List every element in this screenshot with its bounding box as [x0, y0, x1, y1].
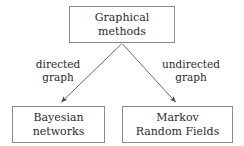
- edge-label-undirected-graph-line2: graph: [148, 71, 234, 84]
- edge-label-undirected-graph: undirected graph: [148, 58, 234, 84]
- node-bayesian-networks-line2: networks: [33, 125, 85, 139]
- node-bayesian-networks[interactable]: Bayesian networks: [12, 106, 105, 143]
- edge-label-directed-graph-line1: directed: [20, 58, 96, 71]
- node-graphical-methods-line2: methods: [98, 25, 146, 39]
- node-markov-random-fields-line2: Random Fields: [136, 125, 220, 139]
- diagram-canvas: Graphical methods Bayesian networks Mark…: [0, 0, 244, 146]
- edge-label-directed-graph-line2: graph: [20, 71, 96, 84]
- edge-label-directed-graph: directed graph: [20, 58, 96, 84]
- node-bayesian-networks-line1: Bayesian: [33, 111, 83, 125]
- node-graphical-methods[interactable]: Graphical methods: [69, 6, 175, 43]
- node-graphical-methods-line1: Graphical: [95, 11, 149, 25]
- node-markov-random-fields-line1: Markov: [156, 111, 199, 125]
- edge-label-undirected-graph-line1: undirected: [148, 58, 234, 71]
- node-markov-random-fields[interactable]: Markov Random Fields: [122, 106, 233, 143]
